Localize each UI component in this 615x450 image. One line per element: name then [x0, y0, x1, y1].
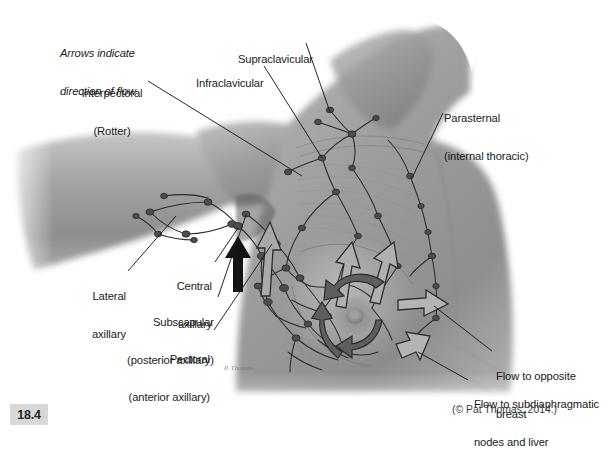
label-parasternal: Parasternal (internal thoracic) — [444, 87, 529, 188]
label-infraclavicular: Infraclavicular — [196, 52, 264, 115]
label-pectoral-line2: (anterior axillary) — [78, 391, 210, 404]
label-parasternal-line1: Parasternal — [444, 112, 529, 125]
label-flow-subdiaphragmatic-line2: nodes and liver — [474, 436, 599, 449]
label-pectoral: Pectoral (anterior axillary) — [78, 328, 210, 429]
artist-signature: P. Thomas — [224, 364, 253, 372]
leader-flow-subdiaphragmatic — [418, 352, 468, 380]
label-infraclavicular-line1: Infraclavicular — [196, 77, 264, 90]
leader-flow-opposite — [434, 306, 492, 351]
copyright-notice: (© Pat Thomas, 2014.) — [452, 404, 557, 415]
leader-pectoral — [214, 244, 272, 330]
label-interpectoral-line1: Interpectoral — [76, 87, 148, 100]
label-parasternal-line2: (internal thoracic) — [444, 150, 529, 163]
label-pectoral-line1: Pectoral — [78, 353, 210, 366]
arrows-note-line1: Arrows indicate — [60, 47, 136, 60]
leader-subscapular — [218, 215, 246, 297]
leader-central — [215, 228, 238, 262]
label-interpectoral: Interpectoral (Rotter) — [76, 62, 148, 163]
label-interpectoral-line2: (Rotter) — [76, 125, 148, 138]
leader-parasternal — [412, 113, 443, 178]
figure-number: 18.4 — [10, 404, 48, 425]
label-subscapular-line1: Subscapular — [78, 316, 214, 329]
